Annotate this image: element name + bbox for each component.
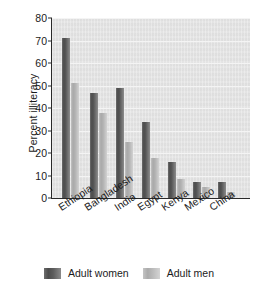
bar-ethiopia-men xyxy=(71,83,79,198)
bar-ethiopia-women xyxy=(62,38,70,198)
legend-item-adult-men: Adult men xyxy=(143,267,214,279)
y-tick-label: 30 xyxy=(35,125,47,137)
gridline xyxy=(52,86,250,87)
y-tick-label: 70 xyxy=(35,35,47,47)
y-tick-mark xyxy=(48,175,52,176)
legend-label-women: Adult women xyxy=(68,267,129,279)
bar-egypt-women xyxy=(142,122,150,199)
y-tick-label: 40 xyxy=(35,102,47,114)
legend-item-adult-women: Adult women xyxy=(44,267,129,279)
y-tick-label: 50 xyxy=(35,80,47,92)
legend-label-men: Adult men xyxy=(167,267,214,279)
gridline xyxy=(52,108,250,109)
y-tick-mark xyxy=(48,18,52,19)
y-tick-label: 10 xyxy=(35,170,47,182)
plot-area: 01020304050607080 xyxy=(52,18,250,198)
y-tick-mark xyxy=(48,40,52,41)
gridline xyxy=(52,41,250,42)
chart-legend: Adult women Adult men xyxy=(44,267,244,279)
gridline xyxy=(52,153,250,154)
y-tick-mark xyxy=(48,108,52,109)
legend-swatch-icon-women xyxy=(44,268,61,279)
gridline xyxy=(52,63,250,64)
y-tick-label: 60 xyxy=(35,57,47,69)
gridline xyxy=(52,131,250,132)
gridline xyxy=(52,18,250,19)
y-tick-mark xyxy=(48,130,52,131)
y-tick-mark xyxy=(48,153,52,154)
y-tick-mark xyxy=(48,198,52,199)
y-tick-label: 80 xyxy=(35,12,47,24)
y-tick-label: 0 xyxy=(41,192,47,204)
illiteracy-bar-chart: Percent illiteracy 01020304050607080 Eth… xyxy=(0,0,265,294)
bar-bangladesh-women xyxy=(90,93,98,198)
legend-swatch-icon-men xyxy=(143,268,160,279)
bar-bangladesh-men xyxy=(99,113,107,199)
y-tick-mark xyxy=(48,85,52,86)
y-tick-label: 20 xyxy=(35,147,47,159)
y-tick-mark xyxy=(48,63,52,64)
bar-india-men xyxy=(125,142,133,198)
